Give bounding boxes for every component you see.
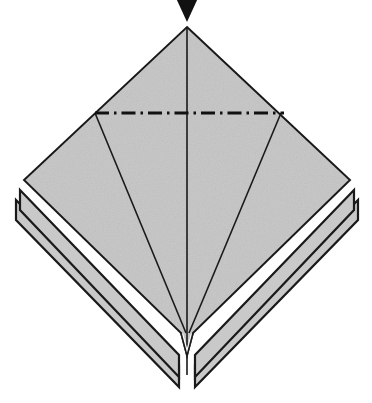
origami-diagram-figure: Origami step diagram mountain-fold-line … [0, 0, 372, 403]
origami-diagram-canvas [0, 0, 372, 403]
